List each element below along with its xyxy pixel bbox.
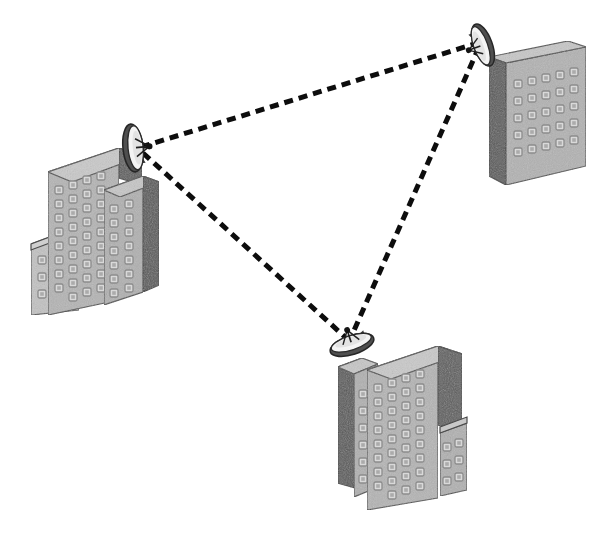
diagram-canvas xyxy=(0,0,608,537)
west-building xyxy=(31,148,159,315)
west-right-wing xyxy=(104,176,159,305)
north-building xyxy=(489,41,586,185)
south-building xyxy=(338,346,467,510)
network-topology-diagram xyxy=(0,0,608,537)
south-low-wing xyxy=(440,417,467,496)
